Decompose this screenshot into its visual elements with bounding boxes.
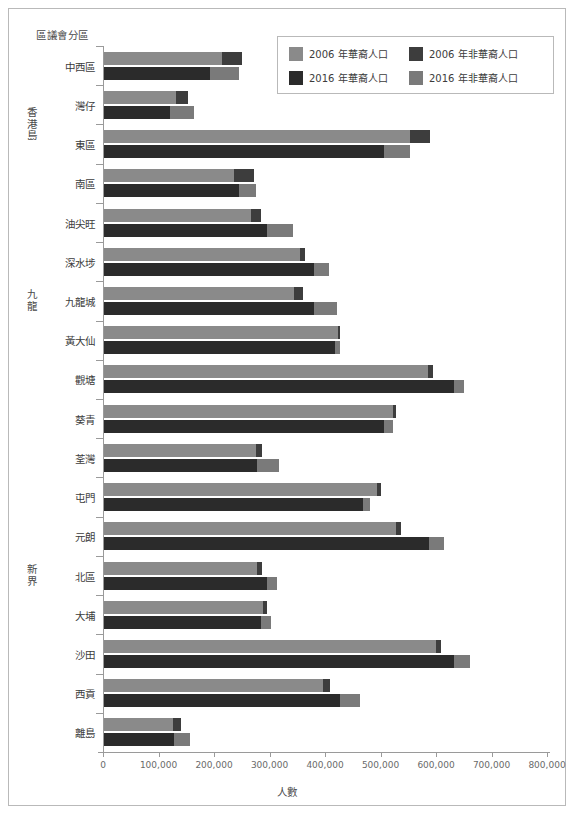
- x-tick-label-300000: 300,000: [251, 760, 288, 770]
- y-axis-tick: [96, 321, 103, 322]
- legend-item-non_chinese_2016[interactable]: 2016 年非華裔人口: [409, 70, 518, 85]
- x-tick-label-0: 0: [100, 760, 106, 770]
- legend-item-non_chinese_2006[interactable]: 2006 年非華裔人口: [409, 46, 518, 61]
- legend-swatch-chinese_2006: [289, 47, 303, 61]
- bar-離島-2006: [104, 718, 181, 731]
- bar-西貢-2006: [104, 679, 330, 692]
- district-label-離島: 離島: [15, 725, 95, 740]
- bar-segment-non_chinese_2006: [338, 326, 341, 339]
- y-axis-tick: [96, 399, 103, 400]
- y-axis-tick: [96, 203, 103, 204]
- bar-segment-non_chinese_2006: [428, 365, 433, 378]
- legend-swatch-chinese_2016: [289, 71, 303, 85]
- bar-segment-non_chinese_2006: [410, 130, 430, 143]
- bar-元朗-2006: [104, 522, 401, 535]
- bar-荃灣-2006: [104, 444, 262, 457]
- bar-屯門-2016: [104, 498, 370, 511]
- y-axis-tick: [96, 634, 103, 635]
- bar-北區-2016: [104, 577, 277, 590]
- bar-segment-non_chinese_2016: [170, 106, 194, 119]
- bar-segment-non_chinese_2006: [377, 483, 382, 496]
- bar-segment-chinese_2006: [104, 562, 257, 575]
- figure-page: 區議會分區 香港島九龍新界 中西區灣仔東區南區油尖旺深水埗九龍城黃大仙觀塘葵青荃…: [0, 0, 574, 814]
- district-label-黃大仙: 黃大仙: [15, 333, 95, 348]
- bar-segment-chinese_2006: [104, 444, 256, 457]
- bar-segment-non_chinese_2016: [174, 733, 190, 746]
- bar-觀塘-2016: [104, 380, 464, 393]
- bar-觀塘-2006: [104, 365, 433, 378]
- x-axis-title: 人數: [0, 784, 574, 799]
- bar-segment-non_chinese_2016: [210, 67, 239, 80]
- bar-大埔-2006: [104, 601, 267, 614]
- bar-segment-non_chinese_2016: [454, 380, 464, 393]
- bar-segment-chinese_2016: [104, 459, 257, 472]
- bar-黃大仙-2016: [104, 341, 340, 354]
- x-axis-tick: [436, 752, 437, 757]
- district-label-南區: 南區: [15, 176, 95, 191]
- district-label-中西區: 中西區: [15, 59, 95, 74]
- bar-segment-non_chinese_2016: [429, 537, 444, 550]
- bar-segment-chinese_2006: [104, 326, 338, 339]
- bar-segment-non_chinese_2016: [384, 145, 410, 158]
- bar-segment-non_chinese_2016: [314, 302, 337, 315]
- bar-segment-chinese_2016: [104, 420, 384, 433]
- x-tick-label-200000: 200,000: [195, 760, 232, 770]
- bar-北區-2006: [104, 562, 262, 575]
- bar-九龍城-2006: [104, 287, 303, 300]
- bar-深水埗-2006: [104, 248, 305, 261]
- bar-segment-non_chinese_2016: [267, 577, 277, 590]
- x-tick-label-500000: 500,000: [362, 760, 399, 770]
- district-label-沙田: 沙田: [15, 647, 95, 662]
- bar-segment-chinese_2016: [104, 733, 174, 746]
- y-axis-title: 區議會分區: [36, 27, 89, 42]
- y-axis-tick: [96, 124, 103, 125]
- bar-沙田-2006: [104, 640, 441, 653]
- y-axis-tick: [96, 438, 103, 439]
- bar-東區-2006: [104, 130, 430, 143]
- bar-segment-chinese_2006: [104, 209, 251, 222]
- y-axis-tick: [96, 477, 103, 478]
- bar-屯門-2006: [104, 483, 381, 496]
- bar-九龍城-2016: [104, 302, 337, 315]
- district-label-荃灣: 荃灣: [15, 451, 95, 466]
- bar-灣仔-2006: [104, 91, 188, 104]
- x-tick-label-700000: 700,000: [473, 760, 510, 770]
- bar-segment-non_chinese_2006: [323, 679, 331, 692]
- y-axis-tick: [96, 242, 103, 243]
- y-axis-tick: [96, 281, 103, 282]
- bar-segment-non_chinese_2006: [234, 169, 254, 182]
- bar-葵青-2016: [104, 420, 393, 433]
- district-label-西貢: 西貢: [15, 686, 95, 701]
- bar-segment-chinese_2016: [104, 498, 363, 511]
- legend: 2006 年華裔人口2006 年非華裔人口2016 年華裔人口2016 年非華裔…: [277, 36, 554, 94]
- bar-segment-chinese_2006: [104, 405, 393, 418]
- bar-segment-chinese_2016: [104, 341, 335, 354]
- legend-item-chinese_2006[interactable]: 2006 年華裔人口: [289, 46, 388, 61]
- district-label-group: 中西區灣仔東區南區油尖旺深水埗九龍城黃大仙觀塘葵青荃灣屯門元朗北區大埔沙田西貢離…: [0, 46, 95, 752]
- x-axis-tick: [325, 752, 326, 757]
- x-axis-tick: [159, 752, 160, 757]
- legend-label-chinese_2006: 2006 年華裔人口: [309, 46, 388, 61]
- district-label-北區: 北區: [15, 569, 95, 584]
- bar-segment-chinese_2006: [104, 483, 377, 496]
- y-axis-tick: [96, 674, 103, 675]
- district-label-元朗: 元朗: [15, 529, 95, 544]
- bar-南區-2016: [104, 184, 256, 197]
- bar-segment-non_chinese_2006: [294, 287, 303, 300]
- district-label-深水埗: 深水埗: [15, 255, 95, 270]
- bar-油尖旺-2006: [104, 209, 261, 222]
- x-axis-tick: [381, 752, 382, 757]
- district-label-九龍城: 九龍城: [15, 294, 95, 309]
- legend-item-chinese_2016[interactable]: 2016 年華裔人口: [289, 70, 388, 85]
- bar-segment-non_chinese_2006: [263, 601, 267, 614]
- bar-segment-chinese_2006: [104, 640, 436, 653]
- bar-segment-chinese_2006: [104, 287, 294, 300]
- legend-label-non_chinese_2006: 2006 年非華裔人口: [429, 46, 518, 61]
- legend-swatch-non_chinese_2016: [409, 71, 423, 85]
- bar-沙田-2016: [104, 655, 470, 668]
- bar-segment-non_chinese_2006: [257, 562, 262, 575]
- bar-segment-non_chinese_2006: [436, 640, 441, 653]
- bar-segment-chinese_2016: [104, 67, 210, 80]
- bar-segment-non_chinese_2016: [363, 498, 371, 511]
- bar-segment-non_chinese_2016: [261, 616, 271, 629]
